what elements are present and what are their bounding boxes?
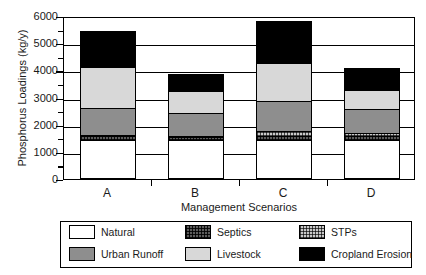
legend-label: Septics: [217, 226, 251, 238]
legend-item-livestock: Livestock: [185, 247, 261, 261]
y-tick-label: 1000: [18, 146, 58, 158]
legend-item-cropland-erosion: Cropland Erosion: [299, 247, 412, 261]
natural-swatch: [69, 225, 95, 239]
bar-segment-stps: [80, 135, 136, 136]
bar-segment-septics: [80, 136, 136, 140]
bar-d: [344, 16, 400, 179]
septics-swatch: [185, 225, 211, 239]
bar-segment-livestock: [168, 91, 224, 113]
legend-label: STPs: [331, 226, 357, 238]
x-tick: [327, 180, 328, 186]
legend-item-septics: Septics: [185, 225, 251, 239]
y-tick-label: 5000: [18, 37, 58, 49]
bar-segment-livestock: [80, 67, 136, 108]
bar-segment-stps: [256, 131, 312, 136]
bar-c: [256, 16, 312, 179]
y-tick-major: [56, 153, 63, 154]
legend-item-stps: STPs: [299, 225, 357, 239]
y-tick-label: 6000: [18, 10, 58, 22]
x-tick-label-c: C: [263, 186, 303, 200]
bar-segment-cropland-erosion: [168, 74, 224, 91]
cropland-erosion-swatch: [299, 247, 325, 261]
legend-label: Urban Runoff: [101, 248, 163, 260]
livestock-swatch: [185, 247, 211, 261]
bar-segment-livestock: [344, 90, 400, 109]
y-tick-label: 0: [18, 173, 58, 185]
bar-segment-urban-runoff: [168, 113, 224, 136]
plot-inner: [64, 18, 414, 179]
bar-segment-cropland-erosion: [256, 21, 312, 62]
legend: NaturalSepticsSTPsUrban RunoffLivestockC…: [60, 221, 412, 268]
bar-segment-livestock: [256, 63, 312, 101]
x-tick-label-a: A: [87, 186, 127, 200]
stps-swatch: [299, 225, 325, 239]
bar-segment-natural: [168, 140, 224, 179]
bar-segment-urban-runoff: [256, 101, 312, 131]
urban-runoff-swatch: [69, 247, 95, 261]
bar-segment-septics: [256, 136, 312, 140]
y-tick-major: [56, 44, 63, 45]
y-tick-major: [56, 99, 63, 100]
bar-a: [80, 16, 136, 179]
bar-b: [168, 16, 224, 179]
bar-segment-urban-runoff: [344, 109, 400, 133]
bar-segment-natural: [256, 140, 312, 179]
y-tick-label: 2000: [18, 119, 58, 131]
x-tick: [239, 180, 240, 186]
bar-segment-cropland-erosion: [80, 31, 136, 68]
legend-item-natural: Natural: [69, 225, 135, 239]
y-tick-major: [56, 180, 63, 181]
x-tick-label-b: B: [175, 186, 215, 200]
legend-label: Cropland Erosion: [331, 248, 412, 260]
y-tick-major: [56, 17, 63, 18]
legend-label: Natural: [101, 226, 135, 238]
bar-segment-stps: [168, 136, 224, 137]
legend-item-urban-runoff: Urban Runoff: [69, 247, 163, 261]
x-axis-title: Management Scenarios: [63, 201, 415, 213]
plot-area: [63, 17, 415, 180]
bar-segment-natural: [80, 140, 136, 179]
bar-segment-urban-runoff: [80, 108, 136, 135]
bar-segment-cropland-erosion: [344, 68, 400, 90]
x-tick-label-d: D: [351, 186, 391, 200]
y-tick-major: [56, 126, 63, 127]
y-tick-label: 4000: [18, 64, 58, 76]
y-tick-label: 3000: [18, 92, 58, 104]
y-tick-major: [56, 71, 63, 72]
bar-segment-stps: [344, 133, 400, 136]
phosphorus-loadings-chart: Phosphorus Loadings (kg/y) 0100020003000…: [0, 0, 426, 275]
x-tick: [151, 180, 152, 186]
bar-segment-septics: [344, 136, 400, 140]
bar-segment-septics: [168, 137, 224, 140]
bar-segment-natural: [344, 140, 400, 179]
legend-label: Livestock: [217, 248, 261, 260]
